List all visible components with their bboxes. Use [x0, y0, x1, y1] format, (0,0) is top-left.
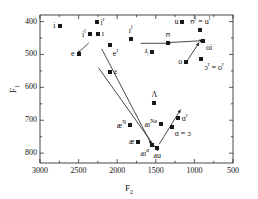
axes-frame: [40, 15, 233, 163]
U-oi-arrow: [168, 41, 203, 43]
e-arrow: [78, 43, 89, 54]
y-axis-title-text: F: [8, 88, 18, 93]
o-to-Or-arrow: [186, 43, 199, 62]
arrow-annotations: [78, 41, 203, 151]
axis-ticks: [40, 15, 233, 163]
E-to-ai-arrow: [102, 49, 152, 144]
y-axis-title-sub: 1: [14, 85, 20, 88]
x-axis-title: F2: [125, 184, 133, 195]
x-axis-title-sub: 2: [130, 189, 133, 195]
eps-long-arrow: [98, 68, 157, 151]
chart-canvas: [0, 0, 258, 199]
vowel-formant-chart: iirilɪereɛɪlɹǀʊuʊl = uloioɔr = orΛæNæaɪN…: [0, 0, 258, 199]
aiN0-Ar-arrow: [159, 110, 180, 145]
y-axis-title: F1: [9, 85, 20, 93]
